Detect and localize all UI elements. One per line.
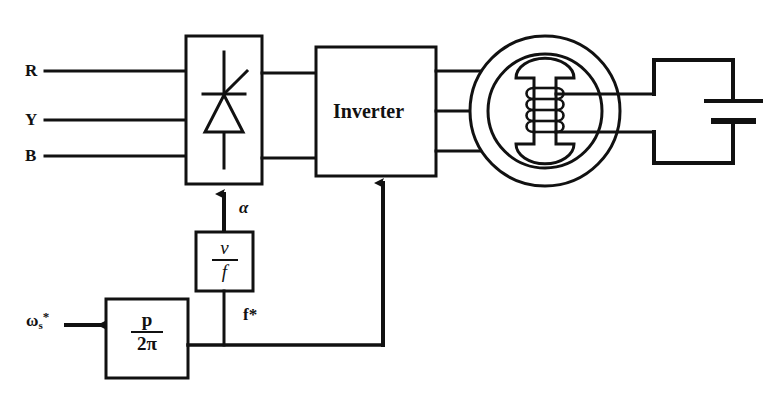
phase-label-y: Y [25, 111, 37, 128]
pole-pair-denominator: 2π [106, 334, 188, 354]
dc-source-loop [654, 60, 733, 163]
omega-base: ω [26, 311, 38, 330]
pole-pair-fraction: p 2π [106, 310, 188, 354]
vf-fraction: v f [196, 238, 253, 282]
vf-numerator: v [196, 238, 253, 258]
phase-label-b: B [25, 147, 36, 164]
speed-reference-label: ωs* [26, 310, 49, 331]
phase-label-r: R [25, 62, 37, 79]
inverter-label: Inverter [333, 101, 404, 121]
pole-pair-numerator: p [106, 310, 188, 330]
diagram-canvas: R Y B Inverter α f* ωs* v f p 2π [0, 0, 767, 406]
firing-angle-label: α [239, 199, 248, 216]
omega-superscript: * [43, 309, 50, 324]
vf-denominator: f [196, 262, 253, 282]
frequency-reference-label: f* [243, 306, 257, 323]
